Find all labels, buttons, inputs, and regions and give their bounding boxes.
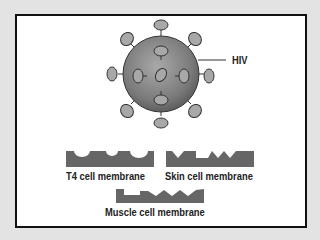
muscle-membrane-label: Muscle cell membrane: [105, 206, 205, 218]
t4-membrane-label: T4 cell membrane: [66, 170, 145, 182]
skin-membrane-shape: [166, 151, 254, 167]
skin-membrane-label: Skin cell membrane: [165, 170, 253, 182]
hiv-label: HIV: [232, 54, 248, 66]
t4-membrane-shape: [66, 151, 154, 167]
hiv-virus-icon: [107, 20, 226, 128]
diagram-graphic: [0, 0, 320, 240]
muscle-membrane-shape: [116, 189, 204, 203]
